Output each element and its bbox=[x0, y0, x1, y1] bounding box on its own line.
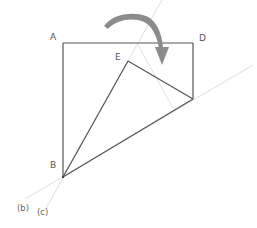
label-d: D bbox=[199, 33, 206, 43]
edge-b-e bbox=[63, 61, 128, 177]
label-a: A bbox=[50, 32, 57, 42]
crease-guide-line bbox=[137, 43, 173, 108]
label-line-c: (c) bbox=[37, 207, 48, 217]
edge-b-f bbox=[63, 99, 193, 177]
edge-e-f bbox=[128, 61, 193, 99]
folded-shape bbox=[63, 43, 193, 177]
label-b: B bbox=[50, 160, 56, 170]
guide-lines bbox=[25, 0, 253, 210]
label-line-b: (b) bbox=[17, 203, 29, 213]
fold-arrow-head bbox=[155, 47, 169, 65]
folding-diagram: A D E B (b) (c) bbox=[0, 0, 257, 228]
fold-arrow-icon bbox=[104, 14, 169, 65]
label-e: E bbox=[115, 52, 121, 62]
fold-arrow-body bbox=[104, 14, 163, 49]
point-b-dot bbox=[62, 176, 64, 178]
